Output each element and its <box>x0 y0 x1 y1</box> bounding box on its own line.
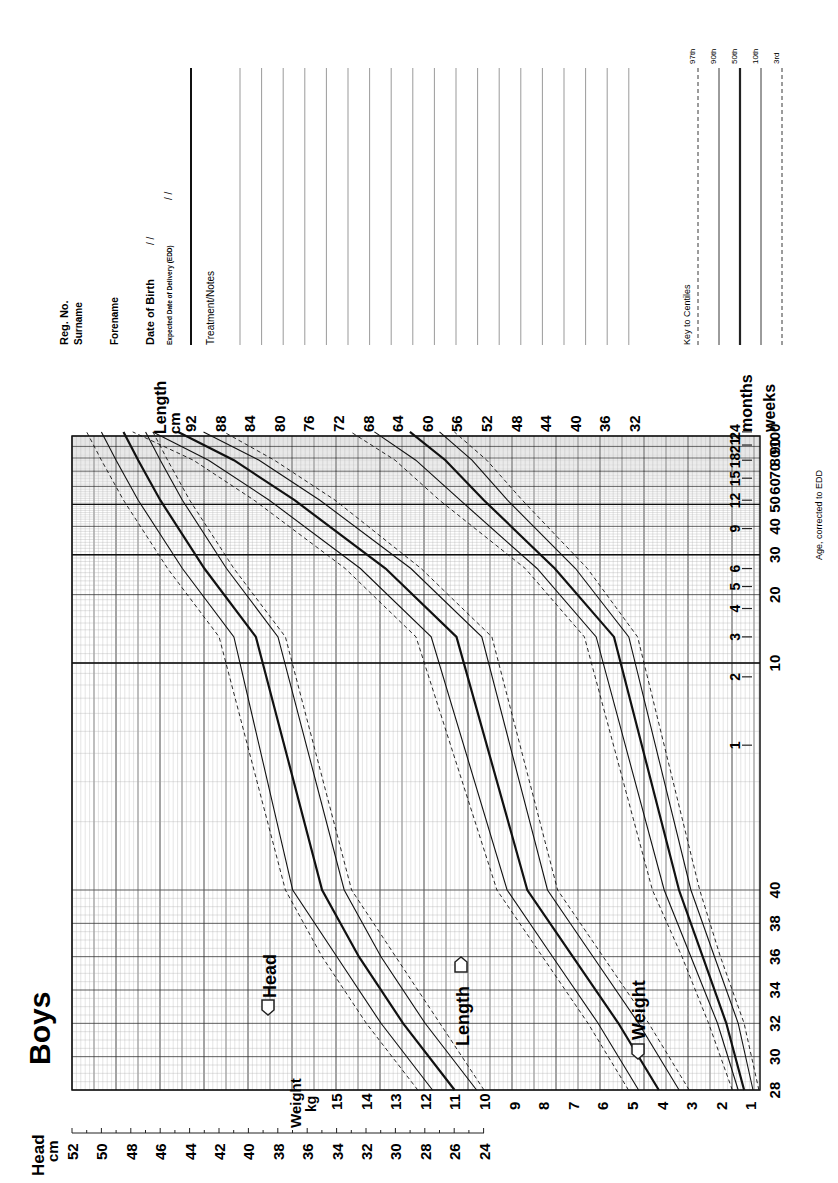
week-tick-label: 40 <box>766 882 783 899</box>
length-tick-label: 56 <box>448 415 465 432</box>
length-tick-label: 76 <box>300 415 317 432</box>
month-tick-label: 2 <box>727 673 743 681</box>
weight-tick-label: 8 <box>535 1102 552 1110</box>
length-tick-label: 40 <box>567 415 584 432</box>
key-label-10th: 10th <box>751 48 760 64</box>
weight-tick-label: 10 <box>476 1093 493 1110</box>
head-label: Head <box>260 954 280 998</box>
weight-tick-label: 7 <box>565 1102 582 1110</box>
length-label: Length <box>453 986 473 1046</box>
week-tick-label: 40 <box>766 518 783 535</box>
arrow-icon <box>455 957 467 972</box>
edd-value[interactable]: / / <box>163 191 174 200</box>
length-tick-label: 84 <box>241 415 258 432</box>
dob-label[interactable]: Date of Birth <box>144 279 156 345</box>
month-tick-label: 15 <box>727 470 743 486</box>
weight-tick-label: 1 <box>742 1102 759 1110</box>
head-axis-unit: cm <box>44 1140 61 1162</box>
weight-axis-unit: kg <box>303 1096 319 1112</box>
length-tick-label: 52 <box>478 415 495 432</box>
length-curve-label: Length <box>453 957 473 1046</box>
weight-curve-label: Weight <box>629 980 649 1059</box>
forename-label[interactable]: Forename <box>109 297 120 345</box>
week-tick-label: 32 <box>766 1015 783 1032</box>
month-tick-label: 18 <box>727 452 743 468</box>
length-tick-label: 88 <box>212 415 229 432</box>
reg-no-label[interactable]: Reg. No. <box>58 300 70 345</box>
head-tick-label: 48 <box>123 1143 140 1160</box>
head-tick-label: 26 <box>446 1143 463 1160</box>
growth-chart-page: Boys 525048464442403836343230282624 Head… <box>0 0 838 1183</box>
age-footnote: Age, corrected to EDD <box>814 469 824 560</box>
arrow-icon <box>262 1000 274 1015</box>
weight-tick-label: 11 <box>446 1094 463 1110</box>
week-tick-label: 34 <box>766 981 783 998</box>
chart-title: Boys <box>23 992 56 1065</box>
length-tick-label: 32 <box>626 415 643 432</box>
edd-label[interactable]: Expected Date of Delivery (EDD) <box>166 245 174 345</box>
week-tick-label: 30 <box>766 546 783 563</box>
length-tick-label: 72 <box>330 415 347 432</box>
week-tick-label: 36 <box>766 948 783 965</box>
length-tick-label: 36 <box>596 415 613 432</box>
centile-curve <box>454 432 759 1090</box>
length-tick-label: 68 <box>360 415 377 432</box>
weight-tick-label: 12 <box>417 1093 434 1110</box>
centile-curve <box>351 432 733 1090</box>
week-tick-label: 30 <box>766 1048 783 1065</box>
key-label-90th: 90th <box>709 48 718 64</box>
head-tick-label: 42 <box>211 1143 228 1160</box>
month-tick-label: 12 <box>727 492 743 508</box>
length-tick-label: 60 <box>419 415 436 432</box>
weight-axis-title: Weight <box>287 1078 304 1128</box>
month-tick-label: 3 <box>727 633 743 641</box>
week-tick-label: 28 <box>766 1082 783 1099</box>
month-tick-label: 1 <box>727 741 743 749</box>
weight-tick-label: 9 <box>506 1102 523 1110</box>
month-tick-label: 6 <box>727 565 743 573</box>
head-tick-label: 46 <box>152 1143 169 1160</box>
weeks-axis-title: weeks <box>761 384 778 433</box>
notes-label: Treatment/Notes <box>205 271 216 345</box>
week-tick-label: 50 <box>766 496 783 513</box>
head-tick-label: 28 <box>417 1143 434 1160</box>
key-label-97th: 97th <box>688 48 697 64</box>
centile-curves <box>87 432 759 1090</box>
head-tick-label: 50 <box>93 1143 110 1160</box>
weight-tick-label: 3 <box>683 1102 700 1110</box>
head-tick-label: 24 <box>476 1143 493 1160</box>
head-tick-label: 44 <box>182 1143 199 1160</box>
head-curve-label: Head <box>260 954 280 1015</box>
weight-label: Weight <box>629 980 649 1040</box>
chart-grid <box>72 436 760 1090</box>
length-tick-label: 92 <box>182 415 199 432</box>
length-tick-label: 48 <box>508 415 525 432</box>
head-tick-label: 34 <box>329 1143 346 1160</box>
centile-key: Key to Centiles 97th90th50th10th3rd <box>682 48 782 345</box>
week-tick-label: 20 <box>766 586 783 603</box>
weight-tick-label: 15 <box>328 1093 345 1110</box>
head-tick-label: 38 <box>270 1143 287 1160</box>
month-tick-label: 9 <box>727 525 743 533</box>
length-tick-label: 80 <box>271 415 288 432</box>
week-tick-label: 60 <box>766 478 783 495</box>
weight-tick-label: 4 <box>654 1101 671 1110</box>
length-tick-label: 44 <box>537 415 554 432</box>
surname-label[interactable]: Surname <box>73 302 84 345</box>
weight-tick-label: 14 <box>358 1093 375 1110</box>
week-tick-label: 10 <box>766 655 783 672</box>
head-tick-label: 52 <box>64 1143 81 1160</box>
months-axis-title: months <box>738 374 755 432</box>
length-axis-unit: cm <box>166 412 183 434</box>
head-tick-label: 30 <box>387 1143 404 1160</box>
notes-lines[interactable] <box>240 68 629 345</box>
weight-tick-label: 6 <box>594 1102 611 1110</box>
weight-tick-label: 5 <box>624 1102 641 1110</box>
head-tick-label: 40 <box>240 1143 257 1160</box>
dob-value[interactable]: / / <box>145 236 156 245</box>
weight-tick-label: 2 <box>713 1102 730 1110</box>
length-tick-label: 64 <box>389 415 406 432</box>
head-tick-label: 32 <box>358 1143 375 1160</box>
length-axis: 92888480767268646056524844403632 Length … <box>152 381 643 434</box>
key-title: Key to Centiles <box>682 284 692 345</box>
